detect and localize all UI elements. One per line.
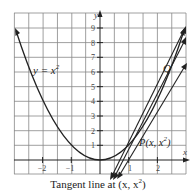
x-axis-label: x <box>182 147 187 157</box>
secant-line-1 <box>112 29 185 177</box>
y-tick-label: 8 <box>91 39 95 48</box>
annotations: y = x2 Q P(x, x2) <box>32 62 171 149</box>
arrow-icon <box>181 63 187 70</box>
chart: −2 −1 1 2 1 2 3 4 5 6 7 8 9 x y y = x2 Q… <box>0 0 196 193</box>
axes <box>14 10 190 174</box>
y-tick-label: 1 <box>91 141 95 150</box>
secant-line-2 <box>115 40 186 177</box>
x-tick-label: −2 <box>38 164 47 173</box>
x-tick-label: 1 <box>128 164 132 173</box>
caption-close: ) <box>142 178 146 190</box>
figure-caption: Tangent line at (x, x2) <box>0 177 196 190</box>
y-tick-label: 9 <box>91 24 95 33</box>
x-axis-arrow-icon <box>183 158 190 163</box>
point-q-label: Q <box>163 62 171 74</box>
y-tick-label: 3 <box>91 112 95 121</box>
y-axis-arrow-icon <box>98 10 103 17</box>
curve-label: y = x2 <box>32 63 60 76</box>
y-tick-label: 4 <box>91 97 95 106</box>
y-tick-label: 7 <box>91 53 95 62</box>
point-p-label: P(x, x2) <box>138 135 171 149</box>
y-tick-label: 2 <box>91 127 95 136</box>
caption-text: Tangent line at (x, x <box>50 178 138 190</box>
y-tick-label: 6 <box>91 68 95 77</box>
tick-labels: −2 −1 1 2 1 2 3 4 5 6 7 8 9 x y <box>38 10 187 173</box>
y-tick-label: 5 <box>91 83 95 92</box>
y-axis-label: y <box>93 10 98 20</box>
x-tick-label: 2 <box>156 164 160 173</box>
x-tick-label: −1 <box>66 164 75 173</box>
